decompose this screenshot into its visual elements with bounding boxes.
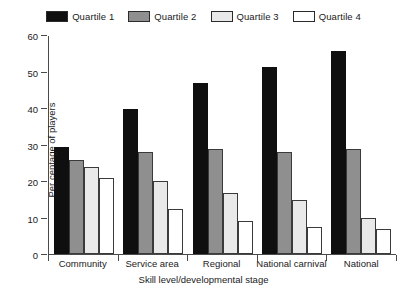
bar: [153, 181, 168, 254]
bar: [223, 193, 238, 254]
bar: [193, 83, 208, 254]
y-axis-tick-label: 40: [27, 104, 38, 115]
bar: [307, 227, 322, 254]
bar-groups: [49, 36, 396, 254]
legend-entry: Quartile 2: [128, 11, 196, 22]
x-axis-category-label: National carnival: [256, 258, 326, 269]
legend-label: Quartile 2: [154, 11, 196, 22]
y-axis-title: Per centage of players: [46, 102, 57, 197]
x-axis-line: [48, 254, 396, 255]
x-axis-category-label: Service area: [117, 258, 186, 269]
x-axis-tick: [396, 255, 397, 261]
bar: [208, 149, 223, 254]
x-axis-category-label: National: [327, 258, 396, 269]
chart-legend: Quartile 1Quartile 2Quartile 3Quartile 4: [0, 11, 407, 22]
y-axis-tick-label: 60: [27, 31, 38, 42]
y-axis-tick: [41, 72, 47, 73]
legend-entry: Quartile 4: [293, 11, 361, 22]
bar: [262, 67, 277, 254]
legend-swatch-icon: [211, 11, 233, 22]
bar-group: [188, 36, 257, 254]
x-axis-category-labels: CommunityService areaRegionalNational ca…: [48, 258, 396, 269]
legend-swatch-icon: [293, 11, 315, 22]
legend-swatch-icon: [46, 11, 68, 22]
bar-chart-figure: Quartile 1Quartile 2Quartile 3Quartile 4…: [0, 0, 407, 299]
bar: [69, 160, 84, 254]
legend-entry: Quartile 3: [211, 11, 279, 22]
plot-area: 0102030405060: [48, 36, 396, 255]
y-axis-tick-label: 0: [33, 250, 38, 261]
y-axis-tick: [41, 35, 47, 36]
x-axis-category-label: Regional: [187, 258, 256, 269]
bar-group: [118, 36, 187, 254]
legend-label: Quartile 4: [319, 11, 361, 22]
bar-group: [49, 36, 118, 254]
bar: [331, 51, 346, 254]
bar-group: [257, 36, 326, 254]
legend-label: Quartile 1: [72, 11, 114, 22]
legend-entry: Quartile 1: [46, 11, 114, 22]
y-axis-tick-label: 20: [27, 177, 38, 188]
bar: [138, 152, 153, 254]
y-axis-tick: [41, 254, 47, 255]
y-axis-tick-label: 30: [27, 140, 38, 151]
bar: [168, 209, 183, 254]
bar-group: [327, 36, 396, 254]
bar: [361, 218, 376, 254]
y-axis-tick: [41, 218, 47, 219]
bar: [123, 109, 138, 254]
x-axis-title: Skill level/developmental stage: [0, 274, 407, 285]
bar: [277, 152, 292, 254]
legend-label: Quartile 3: [237, 11, 279, 22]
bar: [84, 167, 99, 254]
bar: [99, 178, 114, 254]
x-axis-category-label: Community: [48, 258, 117, 269]
y-axis-tick-label: 50: [27, 67, 38, 78]
bar: [376, 229, 391, 254]
y-axis-tick-label: 10: [27, 213, 38, 224]
bar: [292, 200, 307, 255]
legend-swatch-icon: [128, 11, 150, 22]
bar: [238, 221, 253, 254]
bar: [346, 149, 361, 254]
